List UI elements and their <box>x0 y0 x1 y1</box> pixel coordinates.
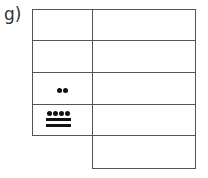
cell-numeral-2 <box>33 73 92 104</box>
column-divider <box>92 9 93 169</box>
maya-bar-icon <box>46 124 71 127</box>
exercise-label: g) <box>4 6 21 23</box>
maya-bar-icon <box>46 118 71 121</box>
maya-dot-icon <box>65 111 70 116</box>
table-bottom-border <box>92 168 196 169</box>
maya-dot-icon <box>57 88 62 93</box>
maya-dot-icon <box>47 111 52 116</box>
table-top-border <box>32 9 196 10</box>
maya-dot-icon <box>59 111 64 116</box>
row-divider <box>32 135 196 136</box>
maya-dot-icon <box>63 88 68 93</box>
row-divider <box>32 40 196 41</box>
table-right-border <box>195 9 196 169</box>
maya-dot-icon <box>53 111 58 116</box>
cell-numeral-14 <box>33 105 92 135</box>
